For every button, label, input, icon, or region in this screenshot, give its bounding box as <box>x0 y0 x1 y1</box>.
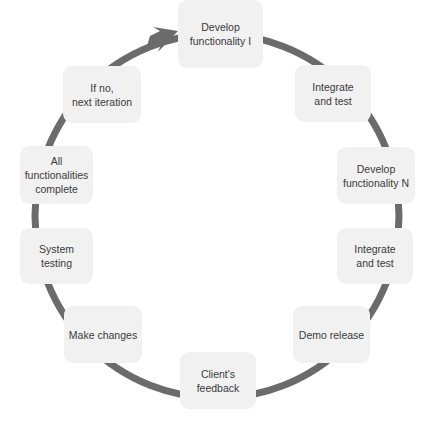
node-if-no-next-iteration: If no, next iteration <box>63 66 141 123</box>
node-develop-functionality-1: Develop functionality I <box>178 0 263 68</box>
node-all-functionalities-complete: All functionalities complete <box>20 146 93 204</box>
node-develop-functionality-n: Develop functionality N <box>337 147 415 204</box>
node-clients-feedback: Client's feedback <box>180 352 256 409</box>
node-integrate-and-test-2: Integrate and test <box>337 228 413 284</box>
node-make-changes: Make changes <box>64 306 142 363</box>
node-system-testing: System testing <box>20 228 93 284</box>
node-demo-release: Demo release <box>293 306 370 363</box>
node-integrate-and-test-1: Integrate and test <box>295 65 371 122</box>
